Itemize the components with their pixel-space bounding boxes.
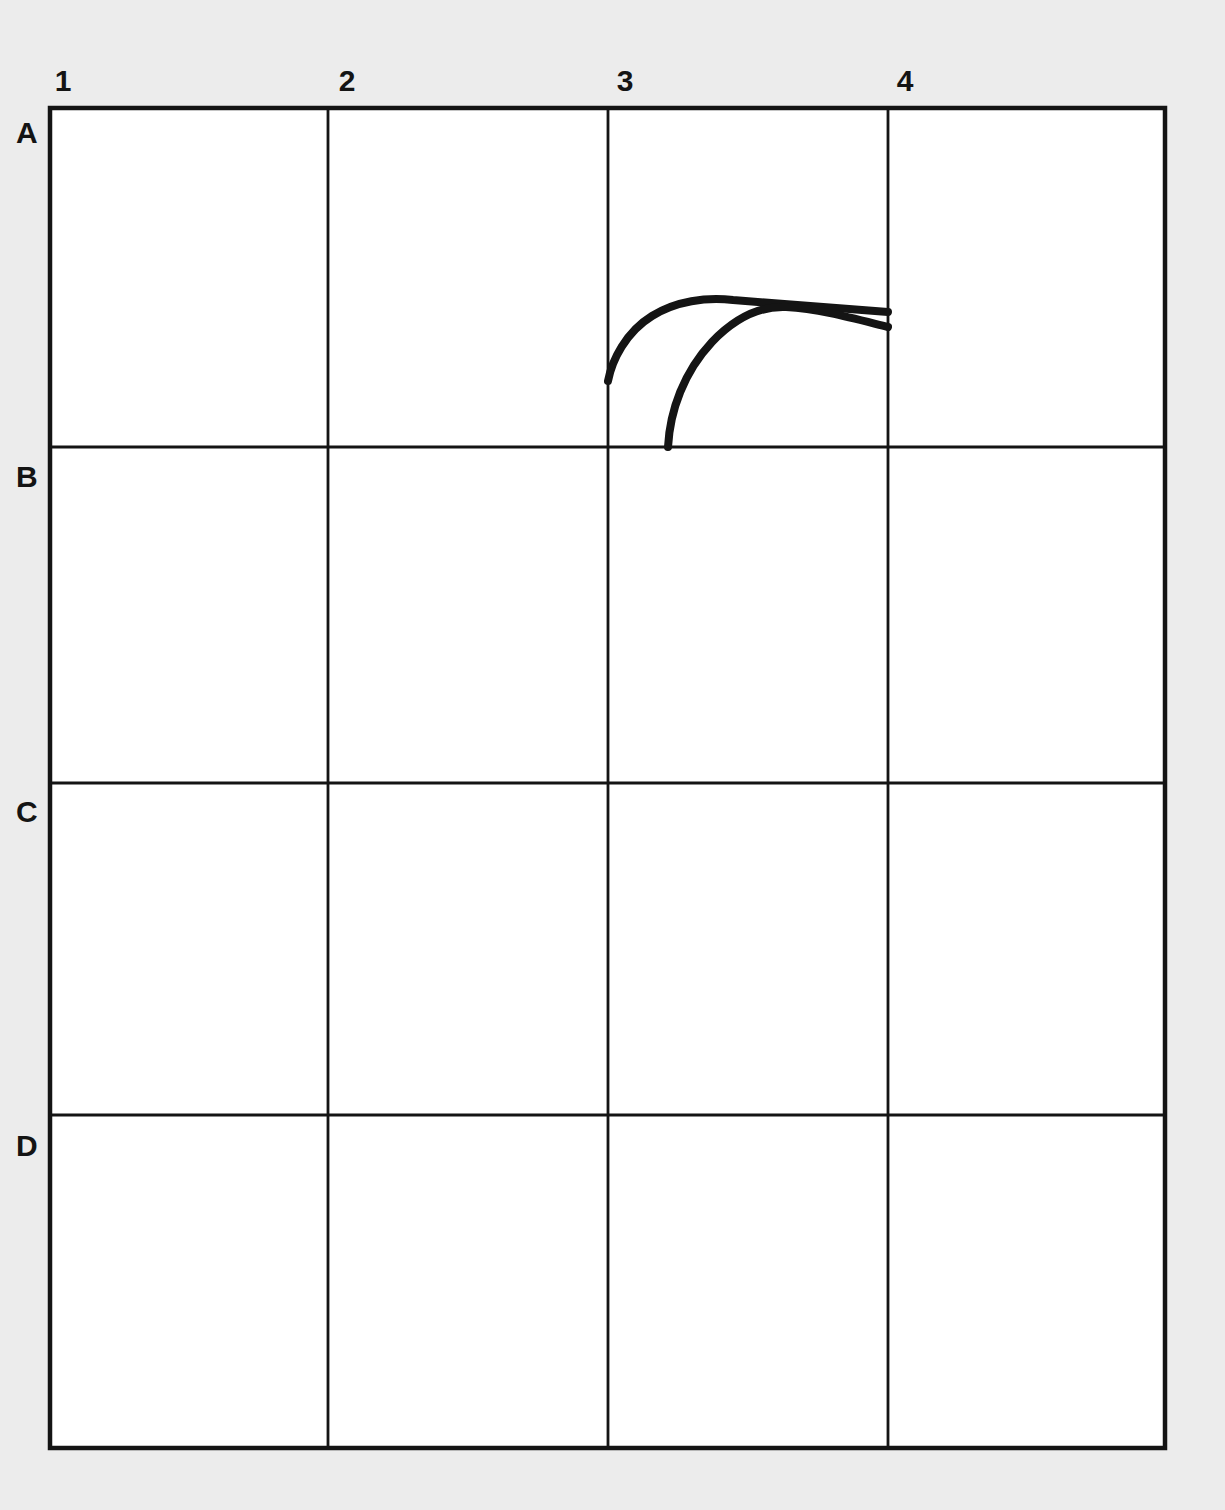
column-label-4: 4 bbox=[897, 66, 914, 96]
row-label-b: B bbox=[16, 462, 38, 492]
column-label-3: 3 bbox=[617, 66, 634, 96]
figure-canvas: 1 2 3 4 A B C D bbox=[0, 0, 1225, 1510]
row-label-c: C bbox=[16, 797, 38, 827]
column-label-2: 2 bbox=[339, 66, 356, 96]
row-label-a: A bbox=[16, 118, 38, 148]
grid-figure bbox=[0, 0, 1225, 1510]
column-label-1: 1 bbox=[55, 66, 72, 96]
row-label-d: D bbox=[16, 1131, 38, 1161]
